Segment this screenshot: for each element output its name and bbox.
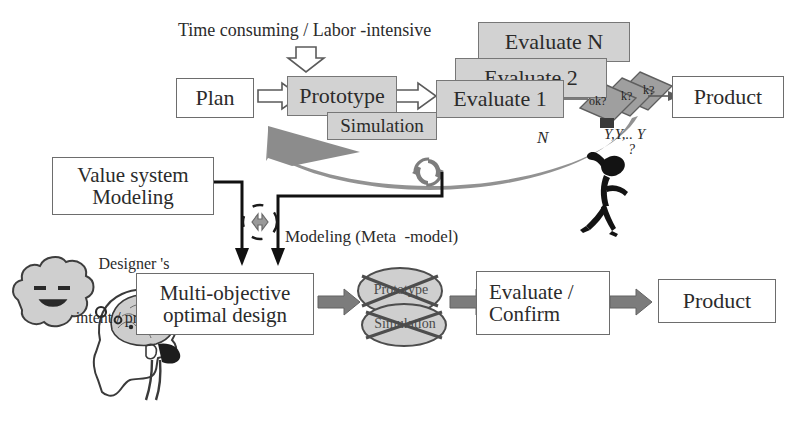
yes-branch-label: Y,Y,.. Y bbox=[604, 126, 645, 143]
multi-objective-line2: optimal design bbox=[163, 304, 287, 326]
dashed-circle-modeling bbox=[243, 205, 277, 239]
value-system-modeling-box[interactable]: Value system Modeling bbox=[52, 157, 214, 215]
plan-box[interactable]: Plan bbox=[176, 78, 254, 118]
block-arrow-design-prototype bbox=[318, 289, 360, 315]
evaluate-1-box[interactable]: Evaluate 1 bbox=[436, 80, 564, 118]
value-system-line2: Modeling bbox=[92, 186, 174, 208]
evaluate-confirm-line2: Confirm bbox=[489, 303, 560, 325]
loop-back-arrow-N bbox=[266, 116, 638, 190]
product-box-top[interactable]: Product bbox=[672, 76, 784, 118]
multi-objective-line1: Multi-objective bbox=[160, 282, 291, 304]
bidirectional-arrow-icon bbox=[252, 214, 268, 230]
product-box-bottom[interactable]: Product bbox=[658, 279, 776, 323]
ellipse-prototype-label: Prototype bbox=[365, 282, 437, 298]
block-arrow-evaluate-product bbox=[610, 289, 652, 315]
connector-valuesystem-down bbox=[214, 182, 242, 252]
decision-label-ok: ok? bbox=[589, 95, 606, 108]
loop-count-label: N bbox=[537, 128, 548, 147]
cycle-refresh-icon bbox=[412, 159, 444, 185]
ellipse-simulation-label: Simulation bbox=[368, 316, 442, 332]
multi-objective-design-box[interactable]: Multi-objective optimal design bbox=[136, 273, 314, 335]
prototype-box[interactable]: Prototype bbox=[287, 76, 397, 116]
designer-line1: Designer 's bbox=[54, 255, 214, 273]
decision-label-2: k? bbox=[621, 90, 632, 103]
question-mark-glyph: ? bbox=[628, 142, 635, 157]
time-consuming-note: Time consuming / Labor -intensive bbox=[178, 20, 431, 40]
modeling-meta-model-label: Modeling (Meta -model) bbox=[285, 227, 458, 246]
value-system-line1: Value system bbox=[77, 164, 188, 186]
arrowhead-loop-down bbox=[271, 248, 285, 266]
stick-figure-question-icon bbox=[580, 152, 628, 237]
diagram-canvas: ? bbox=[0, 0, 797, 440]
hollow-down-arrow-icon bbox=[288, 47, 324, 72]
cloud-eye-left bbox=[34, 286, 46, 290]
arrowhead-vs-down bbox=[235, 248, 249, 266]
decision-label-3: k? bbox=[643, 84, 654, 97]
evaluate-confirm-box[interactable]: Evaluate / Confirm bbox=[476, 271, 610, 335]
simulation-box[interactable]: Simulation bbox=[327, 112, 437, 140]
evaluate-n-box[interactable]: Evaluate N bbox=[478, 22, 630, 62]
hollow-right-arrow-prototype-evaluate bbox=[396, 83, 436, 109]
evaluate-confirm-line1: Evaluate / bbox=[489, 281, 574, 303]
